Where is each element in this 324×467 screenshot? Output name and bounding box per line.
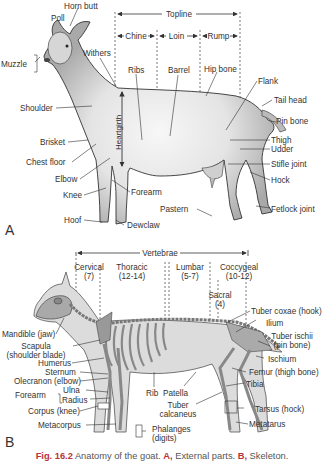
label-rib: Rib xyxy=(146,389,158,398)
label-cervical: Cervical xyxy=(71,263,107,272)
label-hoof: Hoof xyxy=(64,216,81,225)
label-sternum: Sternum xyxy=(45,368,76,377)
caption-text-1: Anatomy of the goat. xyxy=(73,451,163,461)
label-metatarus: Metatarus xyxy=(249,420,285,429)
label-tuber-ischii-2: (pin bone) xyxy=(264,341,320,350)
caption-b-marker: B, xyxy=(238,451,247,461)
label-sacral-count: (4) xyxy=(205,300,235,309)
label-knee: Knee xyxy=(63,191,82,200)
label-rump: Rump xyxy=(207,32,230,41)
goat-illustration xyxy=(0,0,324,467)
label-ribs: Ribs xyxy=(128,66,144,75)
label-tail-head: Tail head xyxy=(274,96,307,105)
label-pin-bone: Pin bone xyxy=(276,117,308,126)
label-flank: Flank xyxy=(258,77,278,86)
label-tuber-ischii-1: Tuber ischii xyxy=(264,332,320,341)
label-dewclaw: Dewclaw xyxy=(127,221,160,230)
label-tarsus: Tarsus (hock) xyxy=(255,405,304,414)
caption-text-3: Skeleton. xyxy=(247,451,288,461)
label-hip-bone: Hip bone xyxy=(204,65,237,74)
label-ilium: Ilium xyxy=(266,319,283,328)
label-tuber-coxae: Tuber coxae (hook) xyxy=(251,307,322,316)
label-tibia: Tibia xyxy=(246,380,263,389)
label-muzzle: Muzzle xyxy=(1,60,27,69)
label-ulna: Ulna xyxy=(63,386,80,395)
label-stifle-joint: Stifle joint xyxy=(271,160,307,169)
caption-a-marker: A, xyxy=(163,451,172,461)
label-barrel: Barrel xyxy=(168,66,190,75)
label-topline: Topline xyxy=(163,10,195,19)
label-hock: Hock xyxy=(271,176,290,185)
label-chine: Chine xyxy=(124,32,148,41)
label-phalanges-2: (digits) xyxy=(152,434,177,443)
label-poll: Poll xyxy=(51,14,65,23)
panel-letter-a: A xyxy=(5,222,14,238)
label-brisket: Brisket xyxy=(40,138,65,147)
label-tuber-calcaneus-2: calcaneus xyxy=(154,410,202,419)
label-vertebrae: Vertebrae xyxy=(140,249,180,258)
label-femur: Femur (thigh bone) xyxy=(249,368,319,377)
label-loin: Loin xyxy=(166,32,187,41)
label-scapula: Scapula xyxy=(6,342,66,351)
label-coccygeal-count: (10-12) xyxy=(216,272,262,281)
label-forearm-b: Forearm xyxy=(15,391,46,400)
label-mandible: Mandible (jaw) xyxy=(2,330,55,339)
label-cervical-count: (7) xyxy=(71,272,107,281)
figure-caption: Fig. 16.2 Anatomy of the goat. A, Extern… xyxy=(0,451,324,461)
label-corpus: Corpus (knee) xyxy=(28,407,80,416)
label-pastern: Pastern xyxy=(160,205,188,214)
label-patella: Patella xyxy=(163,389,188,398)
caption-fig-number: Fig. 16.2 xyxy=(36,451,73,461)
label-metacorpus: Metacorpus xyxy=(38,421,81,430)
label-thoracic: Thoracic xyxy=(112,263,152,272)
label-ischium: Ischium xyxy=(268,355,296,364)
label-fetlock-joint: Fetlock joint xyxy=(271,205,315,214)
goat-anatomy-figure: Horn butt Poll Muzzle Withers Ribs Barre… xyxy=(0,0,324,467)
panel-letter-b: B xyxy=(5,434,14,450)
label-tuber-calcaneus-1: Tuber xyxy=(158,401,198,410)
label-lumbar: Lumbar xyxy=(172,263,208,272)
label-forearm: Forearm xyxy=(131,188,162,197)
label-shoulder: Shoulder xyxy=(20,104,53,113)
label-olecranon: Olecranon (elbow) xyxy=(14,377,81,386)
label-thigh: Thigh xyxy=(271,136,291,145)
label-udder: Udder xyxy=(271,145,293,154)
label-sacral: Sacral xyxy=(205,291,235,300)
label-coccygeal: Coccygeal xyxy=(216,263,262,272)
label-humerus: Humerus xyxy=(38,359,71,368)
caption-text-2: External parts. xyxy=(173,451,238,461)
label-withers: Withers xyxy=(83,49,111,58)
topline-guides xyxy=(115,12,240,98)
label-thoracic-count: (12-14) xyxy=(112,272,152,281)
label-heartgirth: Heartgirth xyxy=(114,115,123,150)
label-lumbar-count: (5-7) xyxy=(172,272,208,281)
label-chest-floor: Chest floor xyxy=(26,158,66,167)
label-elbow: Elbow xyxy=(55,175,77,184)
label-phalanges-1: Phalanges xyxy=(152,425,191,434)
label-radius: Radius xyxy=(62,396,88,405)
label-horn-butt: Horn butt xyxy=(64,2,98,11)
